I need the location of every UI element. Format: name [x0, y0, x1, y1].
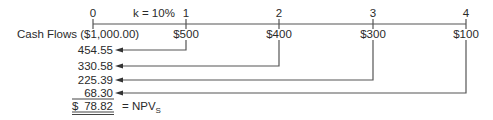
cash-flow-1: $500 [173, 28, 199, 40]
arrowhead-4 [115, 91, 123, 96]
arrowhead-2 [115, 64, 123, 69]
present-value-3: 225.39 [53, 74, 113, 86]
period-label-0: 0 [90, 7, 96, 19]
period-label-1: 1 [183, 7, 189, 19]
discount-rate-label: k = 10% [133, 7, 175, 19]
arrowhead-1 [115, 48, 123, 53]
cash-flows-row-label: Cash Flows ($1,000.00) [17, 28, 139, 40]
npv-label-text: = NPV [122, 100, 156, 112]
initial-outflow: ($1,000.00) [80, 28, 139, 40]
connector-3 [121, 40, 373, 80]
cash-flow-3: $300 [360, 28, 386, 40]
present-value-4: 68.30 [53, 87, 113, 99]
arrowhead-3 [115, 78, 123, 83]
cash-flows-label: Cash Flows [17, 28, 77, 40]
period-label-4: 4 [463, 7, 469, 19]
npv-subscript: S [156, 106, 161, 115]
present-value-2: 330.58 [53, 60, 113, 72]
npv-label: = NPVS [122, 100, 161, 117]
present-value-1: 454.55 [53, 44, 113, 56]
period-label-3: 3 [370, 7, 376, 19]
connector-2 [121, 40, 279, 66]
cash-flow-4: $100 [453, 28, 479, 40]
npv-total: 78.82 [53, 100, 113, 112]
cash-flow-2: $400 [266, 28, 292, 40]
connector-1 [121, 40, 186, 50]
period-label-2: 2 [276, 7, 282, 19]
